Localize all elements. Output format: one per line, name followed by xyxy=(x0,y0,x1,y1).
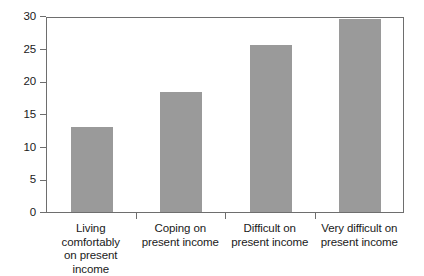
x-label-line-1: Coping on xyxy=(154,222,206,234)
bar-very-difficult xyxy=(339,19,381,212)
y-tick-label-25: 25 xyxy=(6,44,36,56)
y-tick-label-15: 15 xyxy=(6,109,36,121)
x-label-difficult: Difficult on present income xyxy=(225,222,315,249)
x-label-line-1: Very difficult on xyxy=(321,222,397,234)
y-tick-label-20: 20 xyxy=(6,76,36,88)
x-separator-1 xyxy=(136,213,137,219)
bar-coping xyxy=(160,92,202,212)
x-label-line-2: present income xyxy=(225,236,315,250)
x-separator-3 xyxy=(315,213,316,219)
x-label-living-comfortably: Living comfortably on present income xyxy=(46,222,136,276)
bar-difficult xyxy=(250,45,292,212)
plot-area xyxy=(46,17,404,213)
x-label-line-2: present income xyxy=(136,236,226,250)
x-label-very-difficult: Very difficult on present income xyxy=(315,222,405,249)
x-label-coping: Coping on present income xyxy=(136,222,226,249)
bar-living-comfortably xyxy=(71,127,113,212)
y-tick-label-0: 0 xyxy=(6,207,36,219)
x-label-line-1: Difficult on xyxy=(244,222,296,234)
y-tick-label-30: 30 xyxy=(6,11,36,23)
x-label-line-2: on present income xyxy=(46,249,136,276)
y-tick-label-10: 10 xyxy=(6,142,36,154)
x-label-line-1: Living comfortably xyxy=(62,222,120,248)
x-label-line-2: present income xyxy=(315,236,405,250)
x-separator-2 xyxy=(225,213,226,219)
y-tick-label-5: 5 xyxy=(6,174,36,186)
